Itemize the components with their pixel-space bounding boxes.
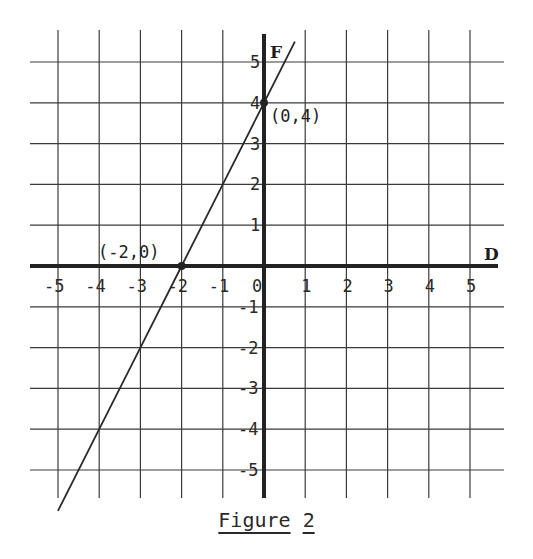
svg-text:-1: -1 (209, 276, 229, 296)
caption-number: 2 (303, 508, 315, 532)
svg-text:-5: -5 (44, 276, 64, 296)
svg-text:5: 5 (466, 276, 476, 296)
svg-text:5: 5 (250, 52, 260, 72)
y-axis-label: F (270, 42, 282, 62)
svg-text:2: 2 (250, 174, 260, 194)
svg-text:0: 0 (252, 276, 262, 296)
svg-text:3: 3 (384, 276, 394, 296)
svg-text:-1: -1 (238, 297, 258, 317)
svg-text:-5: -5 (238, 460, 258, 480)
caption-word: Figure (218, 508, 290, 532)
svg-text:1: 1 (250, 215, 260, 235)
svg-text:-3: -3 (126, 276, 146, 296)
svg-text:-2: -2 (238, 338, 258, 358)
figure-caption: Figure 2 (0, 508, 533, 532)
graph-figure: -5-4-3-2-1012345-5-4-3-2-112345 D F (-2,… (0, 0, 533, 559)
svg-text:-4: -4 (85, 276, 105, 296)
svg-text:-3: -3 (238, 378, 258, 398)
svg-text:4: 4 (250, 93, 260, 113)
svg-text:2: 2 (342, 276, 352, 296)
x-axis-label: D (484, 244, 499, 264)
svg-text:3: 3 (250, 134, 260, 154)
svg-text:4: 4 (425, 276, 435, 296)
point-label-x-intercept: (-2,0) (98, 242, 159, 262)
point-label-y-intercept: (0,4) (270, 106, 321, 126)
svg-text:-4: -4 (238, 419, 258, 439)
svg-text:1: 1 (301, 276, 311, 296)
